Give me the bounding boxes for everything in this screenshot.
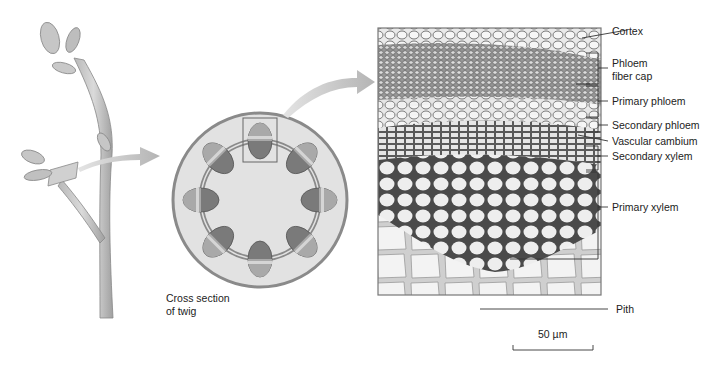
micrograph <box>378 28 601 295</box>
scale-bar-label: 50 µm <box>538 328 567 340</box>
twig-illustration <box>0 0 718 365</box>
label-secondary-xylem: Secondary xylem <box>612 150 693 162</box>
cross-section-caption-line2: of twig <box>166 305 196 318</box>
label-pith: Pith <box>616 303 634 315</box>
label-primary-phloem: Primary phloem <box>612 95 686 107</box>
label-cortex: Cortex <box>612 25 643 37</box>
label-secondary-phloem: Secondary phloem <box>612 119 700 131</box>
label-phloem-fiber-cap-line2: fiber cap <box>612 70 652 82</box>
label-vascular-cambium: Vascular cambium <box>612 135 698 147</box>
cross-section-caption-line1: Cross section <box>166 292 230 305</box>
label-phloem-fiber-cap-line1: Phloem <box>612 57 648 69</box>
cross-section-diagram <box>173 113 347 287</box>
label-primary-xylem: Primary xylem <box>612 201 679 213</box>
